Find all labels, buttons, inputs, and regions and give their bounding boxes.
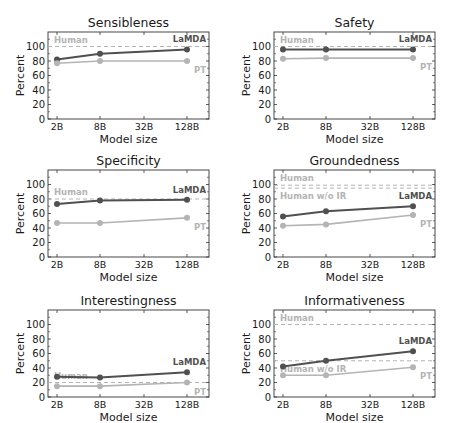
chart-panel-specificity: Specificity0204060801002B8B32B128BModel … [14, 153, 209, 284]
reference-label: Human [280, 173, 314, 183]
chart-title: Specificity [96, 153, 161, 168]
data-point-lamda [410, 348, 416, 354]
x-axis-label: Model size [326, 133, 384, 146]
data-point-lamda [97, 51, 103, 57]
series-line-lamda [283, 206, 413, 216]
y-tick-label: 100 [252, 319, 271, 330]
data-point-pt [323, 221, 329, 227]
y-tick-label: 20 [258, 99, 271, 110]
y-tick-label: 0 [39, 114, 45, 125]
chart-panel-interestingness: Interestingness0204060801002B8B32B128BMo… [14, 293, 209, 423]
series-line-lamda [57, 200, 187, 204]
chart-panel-groundedness: Groundedness0204060801002B8B32B128BModel… [240, 153, 435, 284]
data-point-pt [54, 383, 60, 389]
y-tick-label: 60 [258, 208, 271, 219]
x-tick-label: 2B [51, 121, 64, 132]
x-tick-label: 8B [320, 399, 333, 410]
y-tick-label: 60 [258, 70, 271, 81]
y-axis-label: Percent [240, 332, 253, 374]
y-tick-label: 20 [258, 237, 271, 248]
y-tick-label: 80 [258, 56, 271, 67]
y-axis-label: Percent [14, 192, 27, 234]
y-tick-label: 40 [32, 85, 45, 96]
x-axis-label: Model size [326, 411, 384, 423]
data-point-lamda [54, 201, 60, 207]
y-tick-label: 0 [265, 392, 271, 403]
data-point-pt [280, 223, 286, 229]
data-point-lamda [54, 374, 60, 380]
y-axis-label: Percent [14, 332, 27, 374]
data-point-lamda [323, 208, 329, 214]
x-tick-label: 128B [175, 399, 200, 410]
data-point-pt [97, 58, 103, 64]
x-tick-label: 128B [401, 259, 426, 270]
y-tick-label: 100 [252, 41, 271, 52]
data-point-pt [184, 380, 190, 386]
data-point-lamda [280, 213, 286, 219]
reference-label: Human [280, 313, 314, 323]
series-line-pt [57, 383, 187, 387]
x-axis-label: Model size [100, 271, 158, 284]
x-tick-label: 32B [135, 259, 154, 270]
x-tick-label: 128B [401, 399, 426, 410]
data-point-lamda [184, 369, 190, 375]
reference-label: Human [54, 35, 88, 45]
data-point-lamda [410, 46, 416, 52]
plot-frame [48, 170, 209, 257]
data-point-lamda [280, 364, 286, 370]
y-tick-label: 100 [252, 179, 271, 190]
plot-frame [274, 310, 435, 397]
data-point-lamda [97, 374, 103, 380]
data-point-lamda [184, 197, 190, 203]
y-tick-label: 40 [258, 223, 271, 234]
data-point-lamda [280, 46, 286, 52]
y-tick-label: 80 [258, 334, 271, 345]
data-point-pt [97, 383, 103, 389]
x-tick-label: 128B [175, 259, 200, 270]
series-label-lamda: LaMDA [399, 191, 433, 201]
y-tick-label: 60 [258, 348, 271, 359]
series-line-pt [57, 61, 187, 63]
data-point-lamda [410, 203, 416, 209]
series-label-pt: PT [420, 62, 432, 72]
series-label-pt: PT [420, 371, 432, 381]
chart-title: Groundedness [309, 153, 399, 168]
series-label-pt: PT [194, 387, 206, 397]
series-label-lamda: LaMDA [173, 357, 207, 367]
reference-label: Human w/o IR [280, 191, 347, 201]
chart-panel-sensibleness: Sensibleness0204060801002B8B32B128BModel… [14, 15, 209, 146]
y-tick-label: 20 [32, 377, 45, 388]
y-tick-label: 40 [32, 223, 45, 234]
data-point-pt [410, 55, 416, 61]
data-point-pt [323, 55, 329, 61]
series-line-lamda [57, 49, 187, 59]
series-label-pt: PT [194, 65, 206, 75]
series-label-lamda: LaMDA [173, 185, 207, 195]
x-axis-label: Model size [100, 411, 158, 423]
chart-title: Safety [335, 15, 376, 30]
x-tick-label: 2B [51, 259, 64, 270]
x-tick-label: 32B [361, 399, 380, 410]
y-tick-label: 80 [32, 56, 45, 67]
series-label-lamda: LaMDA [399, 336, 433, 346]
data-point-pt [184, 215, 190, 221]
x-axis-label: Model size [100, 133, 158, 146]
y-tick-label: 20 [258, 377, 271, 388]
y-tick-label: 60 [32, 70, 45, 81]
series-line-pt [283, 215, 413, 226]
x-tick-label: 32B [135, 399, 154, 410]
y-tick-label: 100 [26, 41, 45, 52]
data-point-pt [184, 58, 190, 64]
data-point-pt [323, 372, 329, 378]
series-line-lamda [283, 351, 413, 366]
y-tick-label: 80 [32, 194, 45, 205]
data-point-pt [54, 220, 60, 226]
x-tick-label: 8B [94, 259, 107, 270]
chart-title: Interestingness [80, 293, 176, 308]
series-label-lamda: LaMDA [173, 34, 207, 44]
chart-title: Sensibleness [88, 15, 169, 30]
y-tick-label: 80 [32, 334, 45, 345]
x-tick-label: 8B [320, 259, 333, 270]
series-line-pt [283, 58, 413, 59]
y-tick-label: 40 [258, 85, 271, 96]
